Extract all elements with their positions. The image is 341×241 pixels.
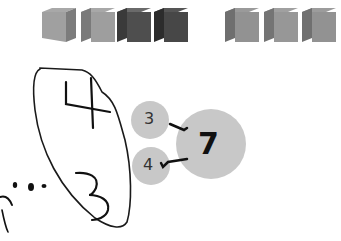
dot-1 [13,182,17,188]
part-label-4: 4 [143,155,153,174]
oval-outline [34,68,131,227]
handwritten-4 [66,82,110,112]
whole-label-7: 7 [198,126,219,161]
partial-stroke-left [0,197,12,205]
handwritten-3 [76,173,108,220]
dot-3 [42,184,47,188]
dot-2 [28,183,34,191]
part-label-3: 3 [144,109,154,128]
handwritten-sketch [0,0,341,241]
